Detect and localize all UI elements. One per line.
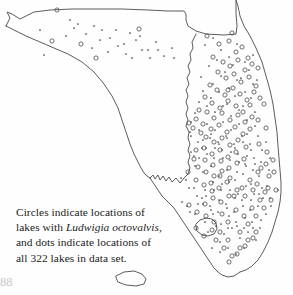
dot-marker (251, 221, 253, 223)
dot-marker (188, 187, 190, 189)
dot-marker (250, 149, 252, 151)
circle-marker (250, 62, 254, 66)
circle-marker (227, 39, 231, 43)
dot-marker (225, 203, 227, 205)
dot-marker (149, 57, 151, 59)
dot-marker (198, 101, 200, 103)
circle-marker (236, 138, 240, 142)
dot-marker (236, 225, 238, 227)
dot-marker (220, 223, 222, 225)
dot-marker (252, 54, 254, 56)
dot-marker (269, 157, 271, 159)
circle-marker (243, 244, 247, 248)
circle-marker (212, 116, 216, 120)
dot-marker (261, 149, 263, 151)
dot-marker (91, 47, 93, 49)
figure-page: Circles indicate locations of lakes with… (0, 0, 293, 295)
circle-marker (243, 194, 247, 198)
circle-marker (266, 186, 270, 190)
circle-marker (248, 103, 252, 107)
circle-marker (218, 106, 222, 110)
dot-marker (250, 199, 252, 201)
dot-marker (258, 175, 260, 177)
dot-marker (189, 131, 191, 133)
circle-marker (235, 188, 239, 192)
dot-marker (265, 141, 267, 143)
dot-marker (201, 197, 203, 199)
dot-marker (244, 91, 246, 93)
dot-marker (258, 193, 260, 195)
dot-marker (242, 105, 244, 107)
dot-marker (214, 129, 216, 131)
circle-marker (262, 206, 266, 210)
circle-marker (240, 186, 244, 190)
circle-marker (246, 222, 250, 226)
dot-marker (147, 49, 149, 51)
dot-marker (198, 129, 200, 131)
dot-marker (222, 157, 224, 159)
dot-marker (181, 201, 183, 203)
caption-line-1: Circles indicate locations of (16, 205, 216, 220)
dot-marker (270, 205, 272, 207)
circle-marker (219, 200, 223, 204)
dot-marker (250, 183, 252, 185)
dot-marker (252, 169, 254, 171)
circle-marker (262, 102, 266, 106)
dot-marker (253, 157, 255, 159)
dot-marker (227, 247, 229, 249)
dot-marker (217, 141, 219, 143)
dot-marker (196, 195, 198, 197)
circle-marker (201, 122, 205, 126)
circle-marker (224, 76, 228, 80)
dot-marker (245, 185, 247, 187)
dot-marker (190, 135, 192, 137)
dot-marker (254, 111, 256, 113)
dot-marker (202, 139, 204, 141)
dot-marker (123, 43, 125, 45)
dot-marker (228, 215, 230, 217)
dot-marker (219, 241, 221, 243)
dot-marker (185, 179, 187, 181)
circle-marker (211, 163, 215, 167)
circle-marker (220, 169, 224, 173)
circle-marker (269, 198, 273, 202)
circle-marker (232, 194, 236, 198)
dot-marker (252, 83, 254, 85)
circle-marker (191, 126, 195, 130)
dot-marker (222, 105, 224, 107)
dot-marker (43, 54, 45, 56)
circle-marker (197, 108, 201, 112)
circle-marker (247, 75, 251, 79)
circle-marker (192, 157, 196, 161)
circle-marker (254, 84, 258, 88)
circle-marker (246, 238, 250, 242)
dot-marker (265, 213, 267, 215)
circle-marker (248, 127, 252, 131)
circle-marker (227, 260, 231, 264)
dot-marker (229, 189, 231, 191)
circle-marker (251, 188, 255, 192)
dot-marker (39, 29, 41, 31)
circle-marker (196, 165, 200, 169)
dot-marker (206, 153, 208, 155)
circle-marker (234, 50, 238, 54)
circle-marker (220, 136, 224, 140)
dot-marker (204, 189, 206, 191)
dot-marker (233, 143, 235, 145)
circle-marker (208, 83, 212, 87)
circle-marker (245, 98, 249, 102)
species-name: Ludwigia octovalvis, (66, 221, 162, 233)
circle-marker (223, 93, 227, 97)
circle-marker (226, 155, 230, 159)
dot-marker (221, 183, 223, 185)
circle-marker (228, 118, 232, 122)
circle-marker (258, 198, 262, 202)
circle-marker (256, 118, 260, 122)
dot-marker (93, 25, 95, 27)
caption-line-3: and dots indicate locations of (16, 235, 216, 250)
circle-marker (243, 68, 247, 72)
dot-marker (77, 23, 79, 25)
dot-marker (173, 57, 175, 59)
circle-marker (234, 150, 238, 154)
dot-marker (234, 147, 236, 149)
